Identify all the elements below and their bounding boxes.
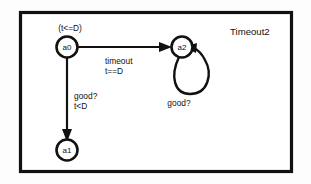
transition-a0-to-a1-sync: good? — [74, 91, 98, 101]
state-a1-label: a1 — [63, 146, 72, 155]
transition-a0-to-a1-guard: t<D — [74, 101, 87, 111]
transition-a0-to-a2-guard: t==D — [105, 66, 123, 76]
state-a2-label: a2 — [178, 43, 187, 52]
diagram-canvas: timeout t==D good? t<D good? (t<=D) a0 a… — [0, 0, 311, 184]
state-node-a2[interactable]: a2 — [172, 37, 193, 58]
state-a0-invariant: (t<=D) — [58, 23, 82, 33]
transition-a2-self-loop-sync: good? — [167, 98, 191, 108]
transition-a0-to-a2-sync: timeout — [105, 56, 133, 66]
state-a0-label: a0 — [63, 43, 72, 52]
state-node-a1[interactable]: a1 — [57, 140, 78, 161]
diagram-title: Timeout2 — [230, 26, 270, 37]
automaton-diagram: timeout t==D good? t<D good? (t<=D) a0 a… — [0, 0, 311, 184]
